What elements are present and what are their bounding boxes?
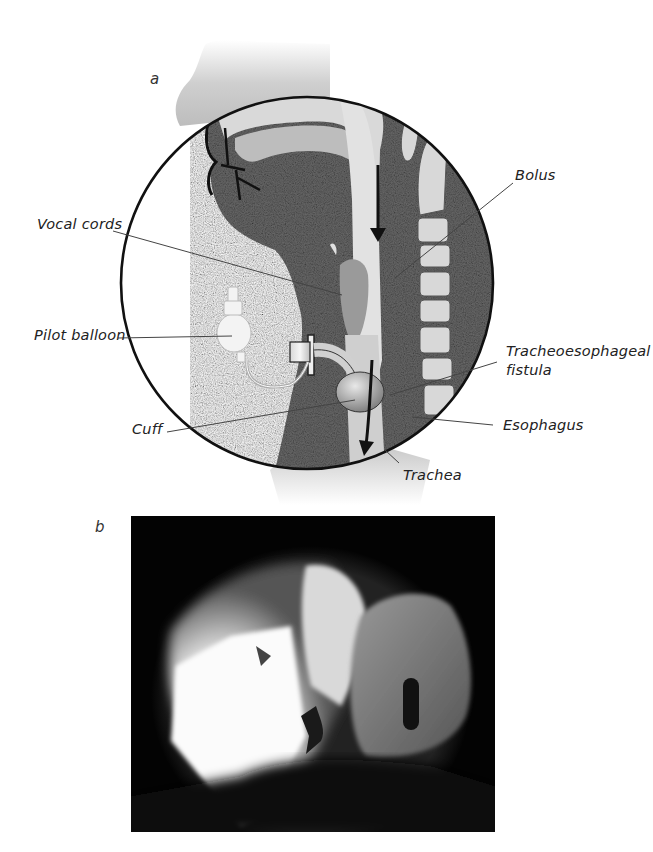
pilot-balloon-shape (217, 314, 251, 352)
radiograph-image (131, 516, 495, 832)
trach-tube-connector (290, 342, 310, 362)
radiograph-right-structure (350, 594, 471, 758)
cuff-shape (336, 372, 384, 412)
panel-b-radiograph (131, 516, 495, 832)
label-trachea: Trachea (403, 467, 462, 483)
label-cuff: Cuff (132, 421, 162, 437)
label-esophagus: Esophagus (503, 417, 584, 433)
label-fistula-line1: Tracheoesophageal (506, 343, 651, 359)
panel-a-letter: a (150, 70, 159, 88)
label-fistula-line2: fistula (506, 362, 552, 378)
panel-b-letter: b (95, 518, 105, 536)
label-pilot-balloon: Pilot balloon (34, 327, 126, 343)
label-vocal-cords: Vocal cords (37, 216, 122, 232)
label-bolus: Bolus (515, 167, 556, 183)
